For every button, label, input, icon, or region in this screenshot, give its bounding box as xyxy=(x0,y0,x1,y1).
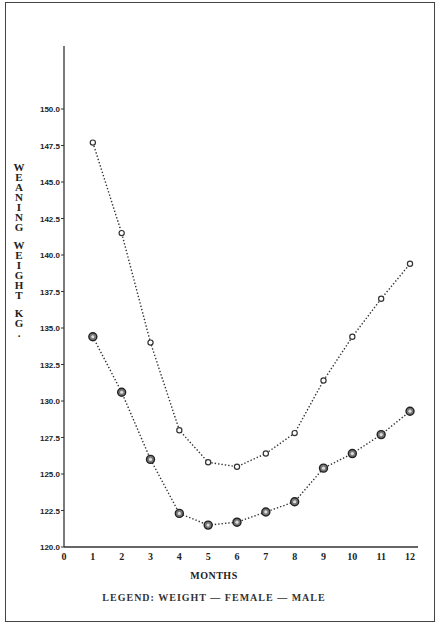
x-tick-label: 9 xyxy=(321,551,326,562)
open-circle-marker xyxy=(206,460,211,465)
x-tick-label: 8 xyxy=(292,551,297,562)
x-tick-label: 4 xyxy=(177,551,182,562)
filled-circle-marker-center xyxy=(380,433,383,436)
x-tick-label: 2 xyxy=(119,551,124,562)
filled-circle-marker-center xyxy=(235,521,238,524)
open-circle-marker xyxy=(292,431,297,436)
filled-circle-marker-center xyxy=(408,410,411,413)
x-tick-label: 12 xyxy=(405,551,415,562)
y-tick-label: 140.0 xyxy=(40,251,61,260)
filled-circle-marker-center xyxy=(207,524,210,527)
y-tick-label: 130.0 xyxy=(40,397,61,406)
filled-circle-marker-center xyxy=(149,458,152,461)
open-circle-marker xyxy=(119,231,124,236)
filled-circle-marker-center xyxy=(91,335,94,338)
open-circle-marker xyxy=(263,451,268,456)
filled-circle-marker-center xyxy=(293,500,296,503)
x-tick-label: 11 xyxy=(376,551,385,562)
open-circle-marker xyxy=(321,378,326,383)
y-tick-label: 145.0 xyxy=(40,178,61,187)
x-tick-label: 10 xyxy=(347,551,357,562)
open-circle-marker xyxy=(379,296,384,301)
open-circle-marker xyxy=(350,334,355,339)
open-circle-marker xyxy=(407,261,412,266)
x-tick-label: 5 xyxy=(206,551,211,562)
x-tick-label: 7 xyxy=(263,551,268,562)
filled-circle-marker-center xyxy=(322,467,325,470)
x-tick-label: 1 xyxy=(90,551,95,562)
x-tick-label: 0 xyxy=(62,551,67,562)
y-tick-label: 132.5 xyxy=(40,361,61,370)
x-tick-label: 3 xyxy=(148,551,153,562)
y-tick-label: 137.5 xyxy=(40,288,61,297)
x-tick-label: 6 xyxy=(235,551,240,562)
filled-circle-marker-center xyxy=(120,391,123,394)
open-circle-marker xyxy=(234,464,239,469)
lower-series-line xyxy=(93,337,410,525)
filled-circle-marker-center xyxy=(178,512,181,515)
open-circle-marker xyxy=(177,428,182,433)
y-tick-label: 125.0 xyxy=(40,470,61,479)
y-tick-label: 122.5 xyxy=(40,507,61,516)
y-tick-label: 150.0 xyxy=(40,105,61,114)
upper-series-line xyxy=(93,143,410,467)
y-tick-label: 147.5 xyxy=(40,142,61,151)
filled-circle-marker-center xyxy=(351,452,354,455)
y-tick-label: 135.0 xyxy=(40,324,61,333)
y-tick-label: 142.5 xyxy=(40,215,61,224)
open-circle-marker xyxy=(148,340,153,345)
y-tick-label: 120.0 xyxy=(40,543,61,552)
y-tick-label: 127.5 xyxy=(40,434,61,443)
filled-circle-marker-center xyxy=(264,510,267,513)
open-circle-marker xyxy=(90,140,95,145)
